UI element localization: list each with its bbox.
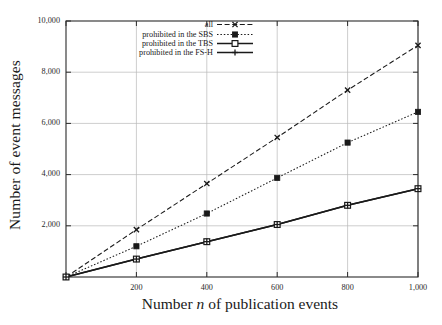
x-tick-label: 400 [187, 283, 227, 292]
marker-filled-square-icon [204, 211, 209, 216]
y-tick-label: 2,000 [24, 220, 60, 229]
legend-entry-label: prohibited in the FS-H [139, 48, 216, 57]
x-tick-label: 800 [328, 283, 368, 292]
x-axis-label: Number n of publication events [60, 295, 420, 313]
legend-sample-filled-square-icon [216, 30, 254, 39]
plot-frame [66, 21, 418, 277]
marker-filled-square-icon [345, 140, 350, 145]
y-tick-label: 6,000 [24, 118, 60, 127]
y-tick-label: 10,000 [24, 16, 60, 25]
y-tick-label: 8,000 [24, 67, 60, 76]
legend-entry: all [104, 20, 254, 29]
legend-entry: prohibited in the SBS [104, 29, 254, 38]
legend-sample-open-square-icon [216, 39, 254, 48]
legend-entry: prohibited in the FS-H [104, 48, 254, 57]
legend-entry: prohibited in the TBS [104, 39, 254, 48]
y-axis-label-text: Number of event messages [6, 60, 24, 230]
legend-entry-label: prohibited in the TBS [142, 39, 216, 48]
x-axis-label-prefix: Number [142, 295, 197, 312]
legend-entry-label: prohibited in the SBS [142, 30, 216, 39]
x-tick-label: 200 [116, 283, 156, 292]
marker-filled-square-icon [415, 109, 420, 114]
series-line-prohibited-in-the-fs-h [66, 189, 418, 277]
series-line-prohibited-in-the-sbs [66, 112, 418, 277]
x-axis-label-suffix: of publication events [204, 295, 338, 312]
marker-filled-square-icon [275, 175, 280, 180]
legend-sample-x-cross-icon [216, 20, 254, 29]
y-tick-label: 4,000 [24, 169, 60, 178]
marker-filled-square-icon [134, 244, 139, 249]
y-axis-label: Number of event messages [0, 0, 30, 290]
chart-legend: allprohibited in the SBSprohibited in th… [104, 20, 254, 58]
legend-sample-plus-icon [216, 48, 254, 57]
chart-figure: Number of event messages Number n of pub… [0, 0, 442, 325]
legend-entry-label: all [205, 20, 216, 29]
x-tick-label: 1,000 [398, 283, 438, 292]
series-line-all [66, 45, 418, 277]
x-tick-label: 600 [257, 283, 297, 292]
